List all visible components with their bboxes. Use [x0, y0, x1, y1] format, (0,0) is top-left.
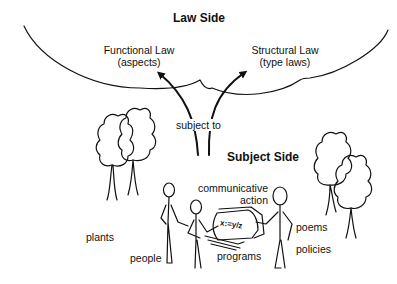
poems-label: poems	[296, 221, 328, 233]
subject-side-title: Subject Side	[227, 151, 299, 163]
person-icon-2	[188, 200, 218, 268]
tree-icon-left-2	[118, 108, 155, 195]
person-icon-1	[161, 183, 188, 263]
arrow-to-structural-law	[209, 73, 244, 155]
communicative-action-line2: action	[188, 194, 268, 206]
functional-law-line2: (aspects)	[84, 56, 194, 68]
law-side-title: Law Side	[169, 12, 229, 24]
tree-icon-right-2	[334, 155, 371, 238]
screen-formula: x:=y/z	[220, 218, 244, 230]
tree-icon-left-1	[96, 114, 133, 200]
programs-label: programs	[217, 250, 261, 262]
functional-law-line1: Functional Law	[84, 44, 194, 56]
people-label: people	[130, 252, 162, 264]
tree-icon-right-1	[314, 132, 351, 215]
communicative-action-label: communicative action	[188, 182, 268, 206]
structural-law-line2: (type laws)	[230, 56, 340, 68]
diagram-canvas: x:=y/z	[0, 0, 397, 284]
subject-to-label: subject to	[175, 119, 222, 131]
arrow-to-functional-law	[160, 74, 198, 155]
policies-label: policies	[296, 243, 331, 255]
functional-law-label: Functional Law (aspects)	[84, 44, 194, 68]
plants-label: plants	[86, 231, 114, 243]
structural-law-label: Structural Law (type laws)	[230, 44, 340, 68]
communicative-action-line1: communicative	[188, 182, 268, 194]
structural-law-line1: Structural Law	[230, 44, 340, 56]
